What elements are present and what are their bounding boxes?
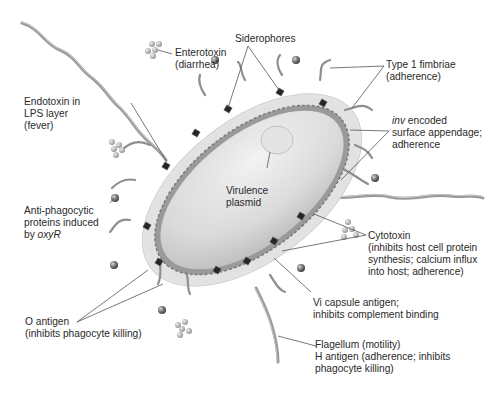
label-inv-appendage: inv encoded surface appendage; adherence: [392, 115, 482, 151]
toxin-cluster-bottom: [175, 319, 192, 338]
flagellum-bottom: [256, 288, 278, 362]
label-endotoxin: Endotoxin in LPS layer (fever): [24, 96, 80, 132]
label-cytotoxin: Cytotoxin (inhibits host cell protein sy…: [368, 230, 477, 278]
label-enterotoxin: Enterotoxin (diarrhea): [175, 47, 227, 71]
label-virulence-plasmid: Virulence plasmid: [226, 185, 268, 209]
flagellum-upper-left: [22, 23, 166, 160]
label-o-antigen: O antigen (inhibits phagocyte killing): [25, 316, 142, 340]
label-anti-phagocytic: Anti-phagocytic proteins induced by oxyR: [24, 205, 99, 241]
label-flagellum: Flagellum (motility) H antigen (adherenc…: [315, 339, 450, 375]
label-vi-capsule: Vi capsule antigen; inhibits complement …: [313, 297, 439, 321]
label-type1-fimbriae: Type 1 fimbriae (adherence): [386, 59, 456, 83]
toxin-cluster-left: [109, 139, 125, 158]
label-siderophores: Siderophores: [235, 33, 296, 45]
virulence-plasmid-shape: [261, 126, 293, 154]
